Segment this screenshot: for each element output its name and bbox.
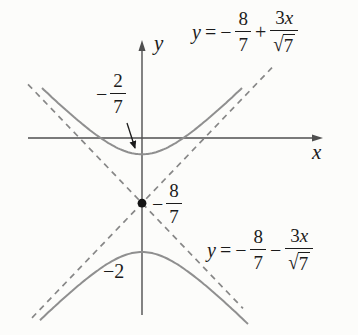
fraction-numerator: 8 [235, 9, 251, 31]
minus-sign: − [235, 240, 246, 260]
equation-rising-asymptote: y = − 8 7 + 3x √7 [190, 8, 300, 55]
fraction-denominator: 7 [250, 249, 266, 272]
radicand: 7 [283, 34, 296, 55]
fraction-8-7: 8 7 [235, 9, 251, 54]
center-point-dot [138, 199, 147, 208]
fraction-numerator: 8 [166, 181, 182, 203]
minus-sign: − [152, 194, 163, 214]
lower-vertex-label: −2 [103, 261, 124, 281]
coefficient: 3 [290, 226, 300, 245]
plot-canvas [0, 0, 358, 335]
asymptote-falling-dashed-line [28, 84, 243, 308]
equation-lhs: y [207, 240, 216, 260]
fraction-numerator: 2 [110, 71, 126, 93]
minus-sign: − [220, 22, 231, 42]
vertex-pointer-arrow [127, 123, 135, 148]
y-axis-label: y [154, 33, 163, 54]
fraction-denominator: 7 [110, 93, 126, 116]
fraction-denominator: √7 [270, 30, 298, 55]
upper-vertex-label: − 2 7 [96, 71, 126, 116]
coefficient: 3 [275, 8, 285, 27]
fraction-denominator: √7 [285, 248, 313, 273]
equals-sign: = [205, 22, 216, 42]
equals-sign: = [220, 240, 231, 260]
fraction-numerator: 3x [287, 226, 311, 248]
fraction-3x-sqrt7: 3x √7 [270, 8, 298, 55]
radical-icon: √ [273, 34, 283, 55]
center-point-label: − 8 7 [152, 181, 182, 226]
variable-x: x [300, 226, 308, 245]
fraction-3x-sqrt7: 3x √7 [285, 226, 313, 273]
plus-sign: + [255, 22, 266, 42]
x-axis-label: x [312, 142, 321, 163]
radicand: 7 [298, 252, 311, 273]
fraction-2-7: 2 7 [110, 71, 126, 116]
equation-lhs: y [192, 22, 201, 42]
fraction-8-7: 8 7 [166, 181, 182, 226]
fraction-numerator: 3x [272, 8, 296, 30]
equation-falling-asymptote: y = − 8 7 − 3x √7 [205, 226, 315, 273]
hyperbola-figure: y x y = − 8 7 + 3x √7 y = − 8 7 − 3x √7 … [0, 0, 358, 335]
minus-sign: − [96, 84, 107, 104]
radical-icon: √ [288, 252, 298, 273]
minus-operator: − [270, 240, 281, 260]
fraction-numerator: 8 [250, 227, 266, 249]
fraction-8-7: 8 7 [250, 227, 266, 272]
fraction-denominator: 7 [166, 203, 182, 226]
fraction-denominator: 7 [235, 31, 251, 54]
variable-x: x [285, 8, 293, 27]
